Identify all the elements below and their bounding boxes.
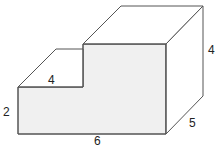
front-face — [18, 44, 166, 134]
label-tall-height: 4 — [208, 43, 215, 57]
label-depth: 5 — [189, 116, 196, 130]
label-step-top: 4 — [48, 73, 55, 87]
step-prism-diagram: 2 4 6 5 4 — [0, 0, 217, 147]
label-step-height: 2 — [3, 105, 10, 119]
label-base-width: 6 — [94, 134, 101, 147]
